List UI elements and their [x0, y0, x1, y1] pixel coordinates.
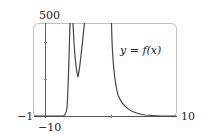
- curve-dip: [73, 23, 85, 77]
- y-min-label: −1: [17, 111, 33, 122]
- curve-flat-left: [34, 23, 70, 116]
- y-max-label: 500: [39, 10, 60, 21]
- plot-frame: [34, 24, 177, 117]
- x-max-label: 10: [181, 111, 195, 122]
- x-min-label: −10: [38, 122, 61, 133]
- curve-decay: [112, 23, 177, 116]
- function-label: y = f(x): [120, 45, 161, 56]
